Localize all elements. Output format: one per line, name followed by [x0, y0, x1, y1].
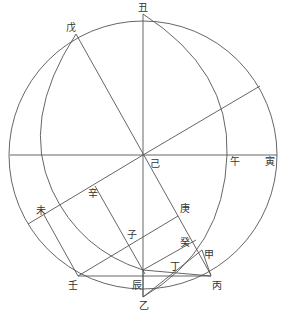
- label-wei: 未: [36, 205, 46, 216]
- label-chen: 辰: [132, 280, 142, 291]
- line-yi-jia: [143, 250, 202, 297]
- label-yin: 寅: [265, 155, 275, 167]
- label-chou: 丑: [138, 2, 148, 13]
- label-yi: 乙: [139, 300, 149, 311]
- label-xin: 辛: [88, 187, 98, 199]
- diagram-canvas: 丑 戊 己 午 寅 未 辛 庚 子 癸 甲 丁 壬 辰 丙 乙: [0, 0, 283, 314]
- label-ding: 丁: [170, 261, 180, 272]
- label-ji: 己: [150, 158, 160, 169]
- line-ji-upper-right: [143, 86, 260, 155]
- label-gui: 癸: [180, 236, 190, 248]
- line-ren-geng: [78, 216, 178, 276]
- label-ren: 壬: [68, 280, 78, 291]
- label-wu-top: 戊: [66, 22, 76, 33]
- label-bing: 丙: [212, 280, 222, 291]
- label-jia: 甲: [204, 249, 214, 260]
- label-wu-noon: 午: [230, 155, 240, 167]
- geometric-diagram: 丑 戊 己 午 寅 未 辛 庚 子 癸 甲 丁 壬 辰 丙 乙: [0, 0, 283, 314]
- label-geng: 庚: [180, 202, 190, 214]
- label-zi: 子: [127, 229, 137, 240]
- right-inner-arc: [143, 14, 227, 297]
